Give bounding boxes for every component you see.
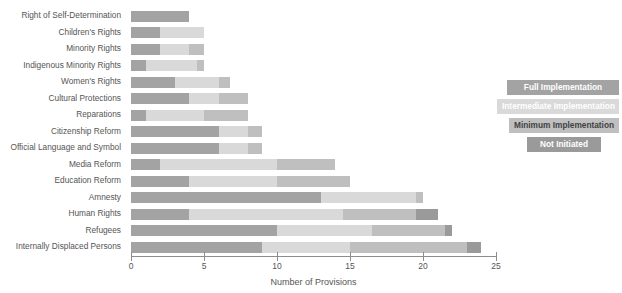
bar-row [131,60,204,71]
bar-segment [131,242,262,253]
bar-segment [131,143,219,154]
legend-item[interactable]: Intermediate Implementation [497,99,619,114]
x-tick-label: 5 [202,261,207,271]
bar-row [131,126,262,137]
bar-segment [160,159,277,170]
category-label: Citizenship Reform [51,127,121,136]
x-axis-title: Number of Provisions [131,277,496,287]
bar-segment [197,60,204,71]
bar-segment [160,27,204,38]
bar-segment [131,209,189,220]
category-label: Children's Rights [59,28,121,37]
bar-segment [467,242,482,253]
bar-segment [175,77,219,88]
legend-item[interactable]: Minimum Implementation [509,118,619,133]
bar-segment [131,176,189,187]
x-tick [277,252,278,261]
bar-segment [219,93,248,104]
x-tick-label: 20 [418,261,427,271]
bar-row [131,176,350,187]
bar-segment [189,176,277,187]
bar-row [131,77,230,88]
plot-area [131,8,496,256]
bar-segment [131,77,175,88]
legend-item[interactable]: Not Initiated [527,137,601,152]
bar-row [131,110,248,121]
x-tick-label: 25 [491,261,500,271]
x-tick-label: 15 [345,261,354,271]
bar-segment [131,93,189,104]
bar-segment [277,225,372,236]
bar-row [131,44,204,55]
bar-segment [219,77,231,88]
bar-segment [277,159,335,170]
bar-row [131,143,262,154]
bar-segment [248,143,263,154]
x-tick [131,252,132,261]
bar-segment [343,209,416,220]
bar-segment [350,242,467,253]
category-label: Women's Rights [61,77,121,86]
chart-legend: Full ImplementationIntermediate Implemen… [497,80,619,156]
category-label: Media Reform [69,160,121,169]
bar-segment [131,44,160,55]
category-label: Cultural Protections [49,94,121,103]
bar-segment [146,60,197,71]
category-label: Reparations [76,110,121,119]
x-tick [496,252,497,261]
category-label: Refugees [85,226,121,235]
bar-segment [131,192,321,203]
bar-segment [160,44,189,55]
x-axis-line [131,256,496,257]
bar-segment [131,225,277,236]
bar-segment [372,225,445,236]
x-tick [350,252,351,261]
bar-row [131,11,189,22]
category-label: Education Reform [55,176,121,185]
bar-segment [131,11,189,22]
bar-segment [189,93,218,104]
bar-segment [248,126,263,137]
category-label: Human Rights [68,209,121,218]
x-tick-label: 0 [129,261,134,271]
bar-row [131,27,204,38]
bar-segment [219,143,248,154]
x-tick [204,252,205,261]
bar-segment [189,44,204,55]
bar-row [131,192,423,203]
category-label: Official Language and Symbol [10,143,121,152]
bar-segment [131,60,146,71]
bar-segment [204,110,248,121]
bar-segment [131,159,160,170]
bar-segment [262,242,350,253]
category-label: Right of Self-Determination [21,11,121,20]
bar-row [131,225,452,236]
category-axis-labels: Right of Self-DeterminationChildren's Ri… [0,8,126,256]
x-tick-label: 10 [272,261,281,271]
legend-item[interactable]: Full Implementation [507,80,619,95]
x-tick [423,252,424,261]
bar-row [131,242,481,253]
bar-segment [131,27,160,38]
bar-segment [321,192,416,203]
bar-row [131,93,248,104]
bar-segment [189,209,342,220]
bar-segment [416,209,438,220]
bar-segment [277,176,350,187]
bar-segment [416,192,423,203]
bar-segment [146,110,204,121]
stacked-bar-chart: Right of Self-DeterminationChildren's Ri… [0,0,622,293]
bar-segment [131,110,146,121]
category-label: Amnesty [89,193,121,202]
bar-segment [131,126,219,137]
bar-row [131,209,438,220]
bar-segment [445,225,452,236]
category-label: Minority Rights [66,44,121,53]
bar-segment [219,126,248,137]
category-label: Indigenous Minority Rights [23,61,121,70]
category-label: Internally Displaced Persons [16,242,121,251]
bar-row [131,159,335,170]
